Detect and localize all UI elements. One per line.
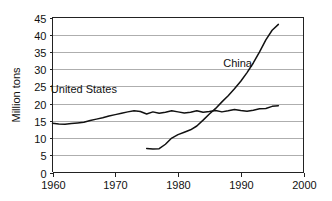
x-tick-label-1960: 1960 [41,179,65,191]
series-annotation-united-states: United States [51,83,118,95]
y-tick-label-35: 35 [34,47,46,59]
series-annotations-group: ChinaUnited States [51,57,253,95]
y-tick-label-5: 5 [40,150,46,162]
y-tick-label-15: 15 [34,116,46,128]
x-tick-marks-group [54,173,305,177]
x-tick-label-1970: 1970 [103,179,127,191]
chart-figure: 051015202530354045 19601970198019902000 … [0,0,332,201]
x-tick-label-1990: 1990 [229,179,253,191]
x-tick-labels-group: 19601970198019902000 [41,179,316,191]
y-tick-label-45: 45 [34,13,46,25]
y-tick-label-20: 20 [34,99,46,111]
y-tick-label-10: 10 [34,133,46,145]
series-annotation-china: China [223,57,253,69]
y-tick-label-40: 40 [34,30,46,42]
gridlines-group [53,36,304,156]
y-tick-label-30: 30 [34,64,46,76]
y-axis-title: Million tons [10,67,22,123]
line-chart-canvas: 051015202530354045 19601970198019902000 … [0,0,332,201]
y-tick-labels-group: 051015202530354045 [34,13,46,180]
x-tick-label-1980: 1980 [166,179,190,191]
y-tick-label-25: 25 [34,81,46,93]
x-tick-label-2000: 2000 [292,179,316,191]
